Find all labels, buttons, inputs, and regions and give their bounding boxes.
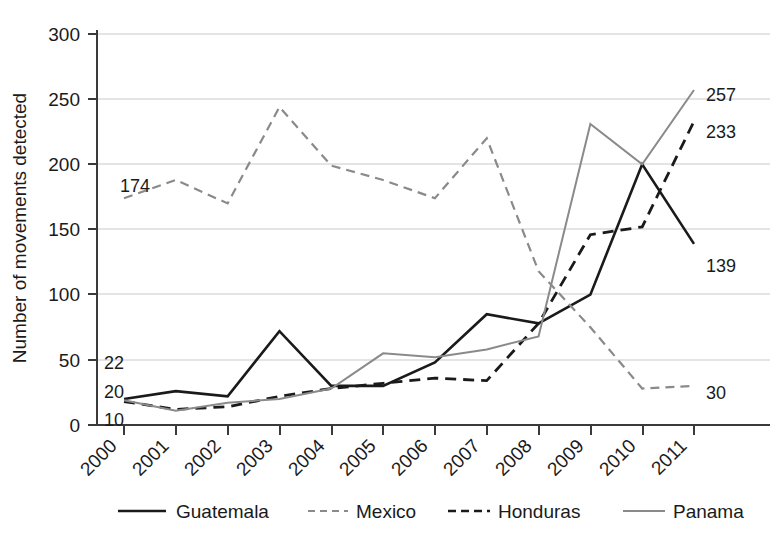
legend-label-guatemala[interactable]: Guatemala [176, 501, 269, 522]
y-tick-label-250: 250 [48, 89, 80, 110]
data-label-guatemala-2011: 139 [706, 256, 736, 276]
y-tick-label-200: 200 [48, 154, 80, 175]
legend-label-honduras[interactable]: Honduras [498, 501, 580, 522]
legend-label-panama[interactable]: Panama [673, 501, 744, 522]
y-tick-label-0: 0 [69, 415, 80, 436]
y-tick-label-150: 150 [48, 219, 80, 240]
y-axis-title: Number of movements detected [9, 93, 30, 363]
y-tick-label-300: 300 [48, 24, 80, 45]
data-label-honduras-2000: 10 [104, 410, 124, 430]
data-label-guatemala-2000: 22 [104, 353, 124, 373]
data-label-panama-2000: 20 [104, 382, 124, 402]
legend-label-mexico[interactable]: Mexico [356, 501, 416, 522]
line-chart: 300 250 200 150 100 50 0 Number of movem… [0, 0, 780, 549]
data-label-mexico-2000: 174 [120, 176, 150, 196]
y-tick-label-100: 100 [48, 284, 80, 305]
data-label-honduras-2011: 233 [706, 122, 736, 142]
data-label-panama-2011: 257 [706, 85, 736, 105]
y-tick-label-50: 50 [59, 350, 80, 371]
chart-container: 300 250 200 150 100 50 0 Number of movem… [0, 0, 780, 549]
data-label-mexico-2011: 30 [706, 383, 726, 403]
